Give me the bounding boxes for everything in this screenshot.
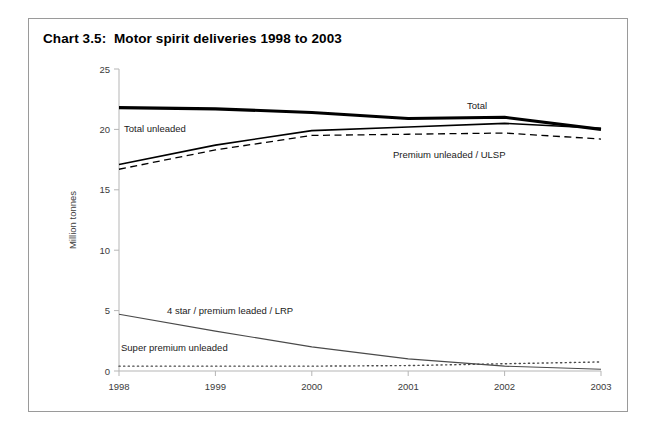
chart-svg: 0510152025 199819992000200120022003 Mill… (29, 19, 629, 413)
x-tick-label: 2000 (301, 381, 322, 392)
y-tick-label: 10 (99, 245, 110, 256)
plot-area: 0510152025 199819992000200120022003 Mill… (29, 19, 629, 413)
series-line-super-premium-unleaded (119, 362, 601, 366)
y-tick-label: 5 (105, 305, 110, 316)
y-tick-label: 0 (105, 366, 110, 377)
y-tick-label: 15 (99, 184, 110, 195)
y-axis-title: Million tonnes (67, 191, 78, 249)
series-line-total (119, 108, 601, 130)
x-tick-label: 2001 (398, 381, 419, 392)
x-tick-label: 1999 (205, 381, 226, 392)
y-tick-label: 25 (99, 64, 110, 75)
x-tick-label: 2002 (494, 381, 515, 392)
y-tick-group: 0510152025 (99, 64, 119, 377)
x-tick-group: 199819992000200120022003 (108, 371, 611, 392)
y-tick-label: 20 (99, 124, 110, 135)
series-annotation-total: Total (467, 100, 487, 111)
series-annotation-premium-ulsp: Premium unleaded / ULSP (393, 149, 505, 160)
series-line-total-unleaded (119, 123, 601, 164)
x-tick-label: 2003 (590, 381, 611, 392)
chart-figure: Chart 3.5: Motor spirit deliveries 1998 … (28, 18, 628, 412)
series-annotation-four-star: 4 star / premium leaded / LRP (167, 305, 293, 316)
x-tick-label: 1998 (108, 381, 129, 392)
series-line-premium-unleaded-ulsp (119, 133, 601, 169)
series-annotation-super-premium: Super premium unleaded (121, 342, 228, 353)
series-annotation-group: TotalTotal unleadedPremium unleaded / UL… (121, 100, 505, 353)
series-annotation-total-unleaded: Total unleaded (124, 123, 186, 134)
